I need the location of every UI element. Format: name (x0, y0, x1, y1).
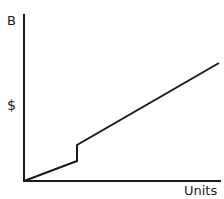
chart-canvas (0, 0, 224, 199)
step-cost-chart: B $ Units (0, 0, 224, 199)
x-axis-label: Units (184, 184, 217, 197)
cost-line (24, 63, 219, 181)
top-label: B (7, 14, 16, 27)
y-axis-label: $ (7, 98, 16, 112)
